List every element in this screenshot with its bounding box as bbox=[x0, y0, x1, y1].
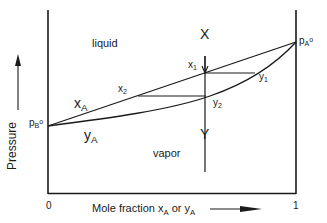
y1-sub: 1 bbox=[264, 76, 268, 83]
pB-label: pBo bbox=[29, 118, 43, 128]
liquid-curve-label: xA bbox=[74, 96, 88, 110]
point-x1-label: x1 bbox=[188, 60, 197, 70]
pA-p: p bbox=[299, 35, 305, 46]
pressure-arrow-icon bbox=[15, 54, 21, 66]
x-tick-1: 1 bbox=[293, 201, 299, 211]
region-liquid-label: liquid bbox=[92, 38, 118, 49]
x-axis-label-x-sub: A bbox=[164, 208, 169, 217]
vapor-curve-label: yA bbox=[84, 128, 98, 142]
vertical-top-label: X bbox=[200, 27, 209, 41]
pB-sup: o bbox=[39, 118, 43, 125]
x-axis-label: Mole fraction xA or yA bbox=[92, 203, 195, 214]
x-axis-label-prefix: Mole fraction bbox=[92, 202, 158, 214]
point-y2-label: y2 bbox=[213, 98, 222, 108]
y-axis-label: Pressure bbox=[6, 122, 18, 170]
liquid-curve-label-main: x bbox=[74, 95, 81, 111]
region-vapor-label: vapor bbox=[153, 148, 181, 159]
vertical-bottom-label: Y bbox=[200, 127, 209, 141]
x-tick-0: 0 bbox=[46, 201, 52, 211]
pA-label: pAo bbox=[299, 36, 313, 46]
liquid-line-xA bbox=[48, 42, 296, 126]
pB-p: p bbox=[29, 117, 35, 128]
x-axis-label-y-sub: A bbox=[190, 208, 195, 217]
phase-diagram-canvas bbox=[0, 0, 327, 223]
pA-sup: o bbox=[309, 36, 313, 43]
x1-sub: 1 bbox=[193, 64, 197, 71]
liquid-curve-label-sub: A bbox=[81, 102, 88, 113]
vapor-curve-label-main: y bbox=[84, 127, 91, 143]
xaxis-arrow-icon bbox=[240, 206, 262, 212]
y2-sub: 2 bbox=[218, 102, 222, 109]
x2-sub: 2 bbox=[123, 88, 127, 95]
point-y1-label: y1 bbox=[259, 72, 268, 82]
vapor-curve-label-sub: A bbox=[91, 134, 98, 145]
x-axis-label-x: x bbox=[158, 202, 164, 214]
x-axis-label-or: or bbox=[169, 202, 185, 214]
point-x2-label: x2 bbox=[118, 84, 127, 94]
